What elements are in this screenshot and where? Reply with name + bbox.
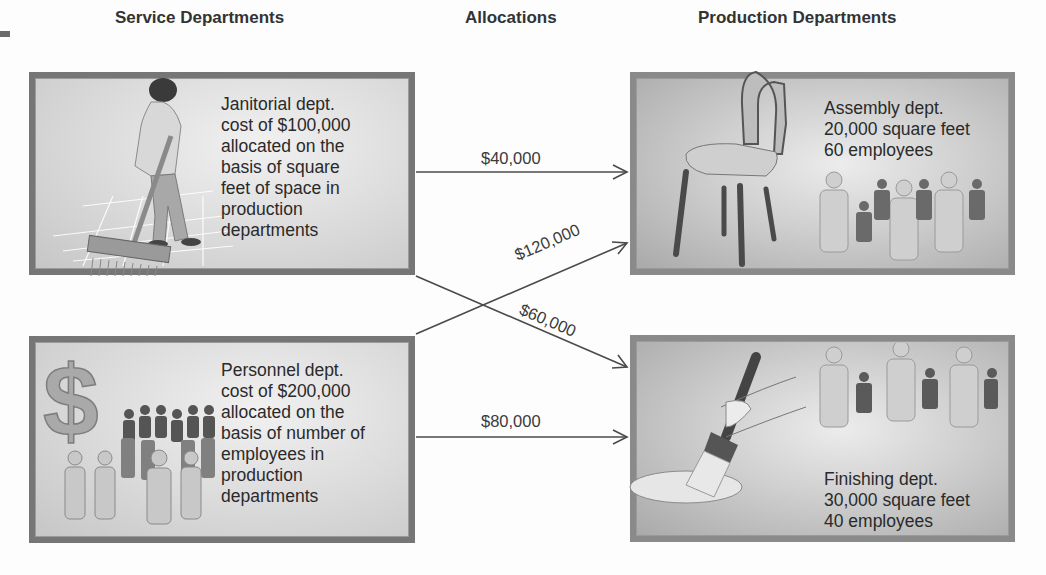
allocation-arrows	[0, 0, 1046, 575]
allocation-amount-janitorial-assembly: $40,000	[481, 149, 541, 168]
allocation-amount-personnel-finishing: $80,000	[481, 412, 541, 431]
